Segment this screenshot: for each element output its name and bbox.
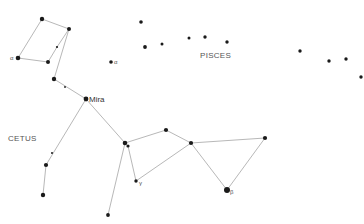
star-c2 [67,27,71,31]
star-p7 [298,49,301,52]
star-p2 [143,45,147,49]
star-c10 [126,144,129,147]
star-p6 [225,40,228,43]
constellation-line [54,79,86,99]
constellation-line [57,29,69,47]
star-c18 [44,163,48,167]
star-p5 [203,35,206,38]
star-gamma [134,179,137,182]
constellation-line [166,130,191,143]
constellation-label-cetus: CETUS [8,134,37,143]
star-c11 [164,128,168,132]
constellation-line [136,143,191,181]
star-c13 [263,136,267,140]
constellation-line [125,130,166,143]
constellation-line [191,138,265,143]
star-chart: CETUS PISCES Mira α α β γ [0,0,364,224]
star-c17 [51,152,53,154]
star-c6 [52,77,56,81]
star-p1 [139,20,143,24]
star-p8 [327,59,330,62]
star-c19 [41,193,45,197]
star-mira [84,97,89,102]
constellation-line [227,138,265,190]
star-c1 [40,17,44,21]
star-label-alpha-cetus: α [10,55,14,61]
stars [16,17,363,217]
star-c16 [106,213,110,217]
star-p10 [359,75,362,78]
constellation-line [108,143,125,215]
constellation-line [191,143,227,190]
constellation-line [18,19,42,58]
star-alpha_p [109,60,113,64]
star-label-beta: β [230,189,234,195]
constellation-line [48,47,57,62]
star-c7 [64,86,66,88]
constellation-line [86,99,125,143]
constellation-label-pisces: PISCES [200,51,231,60]
star-c4 [46,60,50,64]
star-label-gamma: γ [139,180,142,186]
constellation-line [46,99,86,165]
star-p3 [161,43,164,46]
star-label-mira: Mira [89,95,105,104]
star-c3 [16,56,21,61]
constellation-line [43,165,46,195]
constellation-line [18,58,48,62]
star-p4 [188,37,191,40]
star-c12 [189,141,193,145]
constellation-line [42,19,69,29]
constellation-line [128,146,136,181]
star-c5 [56,46,58,48]
star-c9 [123,141,128,146]
constellation-line [54,29,69,79]
star-p9 [344,57,347,60]
star-label-alpha-pisces: α [114,59,118,65]
